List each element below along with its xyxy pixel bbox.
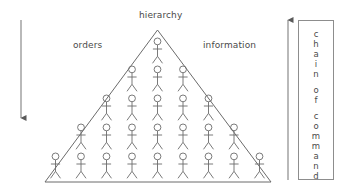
chain-letter: o xyxy=(313,121,318,131)
hierarchy-diagram-canvas: hierarchy orders information chainofcomm… xyxy=(0,0,352,192)
chain-letter: o xyxy=(313,85,318,95)
chain-of-command-letters: chainofcommand xyxy=(299,29,333,181)
stick-figure-person-icon xyxy=(153,38,163,63)
stick-figure-person-icon xyxy=(153,124,163,149)
chain-letter: i xyxy=(315,59,317,69)
chain-letter: h xyxy=(313,39,318,49)
stick-figure-person-icon xyxy=(153,153,163,178)
chain-letter: d xyxy=(313,171,318,181)
chain-letter: a xyxy=(313,49,318,59)
chain-letter: a xyxy=(313,151,318,161)
chain-letter: n xyxy=(313,161,318,171)
stick-figure-person-icon xyxy=(127,66,137,91)
stick-figure-person-icon xyxy=(229,153,239,178)
stick-figure-person-icon xyxy=(76,124,86,149)
stick-figure-person-icon xyxy=(178,95,188,120)
stick-figure-person-icon xyxy=(178,66,188,91)
stick-figure-person-icon xyxy=(102,124,112,149)
stick-figure-person-icon xyxy=(127,153,137,178)
stick-figures-layer xyxy=(51,38,265,178)
chain-letter: c xyxy=(314,111,319,121)
stick-figure-person-icon xyxy=(51,153,61,178)
chain-letter: c xyxy=(314,29,319,39)
stick-figure-person-icon xyxy=(204,153,214,178)
stick-figure-person-icon xyxy=(153,66,163,91)
stick-figure-person-icon xyxy=(178,124,188,149)
stick-figure-person-icon xyxy=(127,124,137,149)
stick-figure-person-icon xyxy=(153,95,163,120)
chain-of-command-box: chainofcommand xyxy=(298,20,334,180)
chain-letter: f xyxy=(315,95,318,105)
stick-figure-person-icon xyxy=(102,153,112,178)
stick-figure-person-icon xyxy=(255,153,265,178)
chain-letter: m xyxy=(312,141,320,151)
stick-figure-person-icon xyxy=(127,95,137,120)
stick-figure-person-icon xyxy=(76,153,86,178)
chain-letter: n xyxy=(313,69,318,79)
stick-figure-person-icon xyxy=(204,124,214,149)
stick-figure-person-icon xyxy=(178,153,188,178)
chain-letter: m xyxy=(312,131,320,141)
